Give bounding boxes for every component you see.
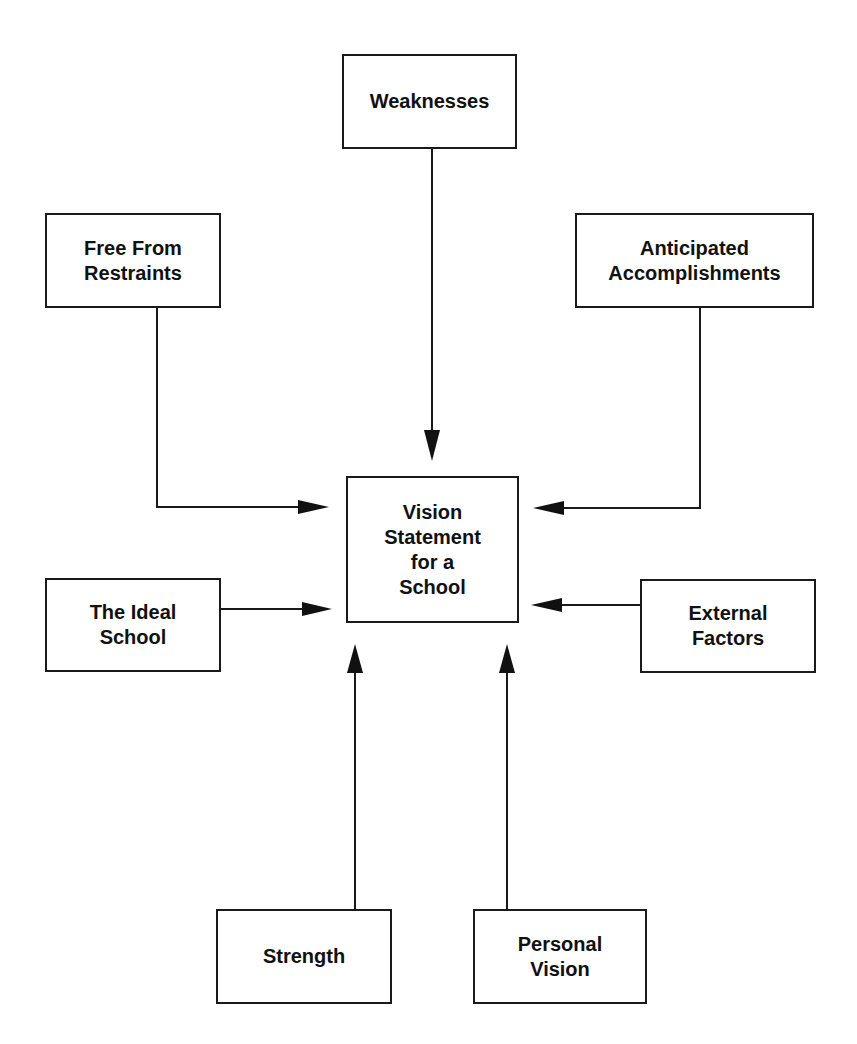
arrowhead-right-icon	[302, 602, 332, 616]
node-weaknesses: Weaknesses	[342, 54, 517, 149]
node-label: Personal Vision	[518, 932, 602, 982]
node-free-from-restraints: Free From Restraints	[45, 213, 221, 308]
node-vision-statement-center: Vision Statement for a School	[346, 476, 519, 623]
arrowhead-up-icon	[499, 644, 515, 673]
node-label: Anticipated Accomplishments	[608, 236, 780, 286]
node-anticipated-accomplishments: Anticipated Accomplishments	[575, 213, 814, 308]
center-label: Vision Statement for a School	[384, 500, 481, 600]
node-label: External Factors	[689, 601, 768, 651]
edge-anticipated-accomplishments	[562, 307, 700, 508]
node-strength: Strength	[216, 909, 392, 1004]
arrowhead-down-icon	[424, 430, 440, 461]
node-label: Strength	[263, 944, 345, 969]
arrowhead-right-icon	[298, 500, 329, 514]
node-label: The Ideal School	[90, 600, 177, 650]
node-label: Weaknesses	[370, 89, 490, 114]
node-personal-vision: Personal Vision	[473, 909, 647, 1004]
edge-free-from-restraints	[157, 307, 300, 507]
arrowhead-left-icon	[533, 501, 564, 515]
node-label: Free From Restraints	[84, 236, 182, 286]
arrowhead-left-icon	[531, 598, 562, 612]
node-external-factors: External Factors	[640, 579, 816, 673]
node-ideal-school: The Ideal School	[45, 578, 221, 672]
arrowhead-up-icon	[347, 644, 363, 673]
